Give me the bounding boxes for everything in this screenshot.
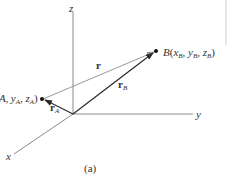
vector-rB-label: rB	[118, 78, 128, 92]
x-axis	[14, 114, 73, 154]
vector-rB	[73, 53, 153, 114]
point-A-dot	[40, 97, 44, 101]
z-axis-label: z	[68, 2, 74, 14]
point-A-label: A, yA, zA)	[0, 92, 38, 106]
point-B-dot	[154, 49, 158, 53]
vector-rA-label: rA	[50, 101, 60, 115]
vector-r-label: r	[96, 59, 101, 71]
x-axis-label: x	[5, 150, 11, 162]
figure-caption: (a)	[84, 162, 97, 175]
vector-diagram: z y x A, yA, zA) B(xB, yB, zB) r rB rA (…	[0, 0, 230, 187]
point-B-label: B(xB, yB, zB)	[163, 46, 215, 60]
y-axis-label: y	[195, 108, 201, 120]
